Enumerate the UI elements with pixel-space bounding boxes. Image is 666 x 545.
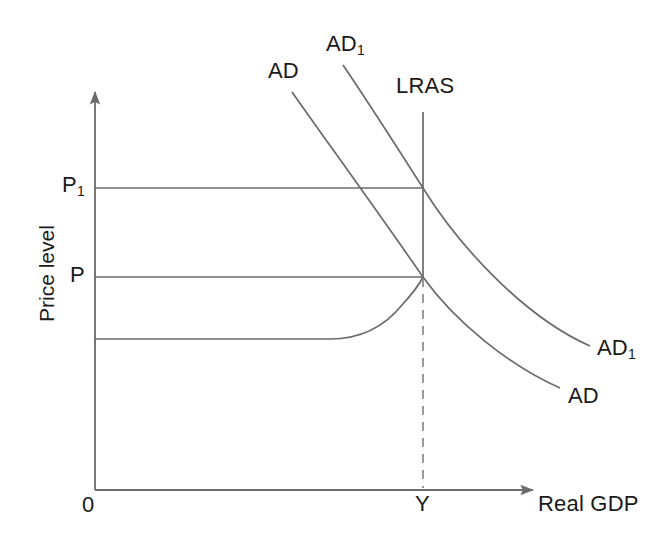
ad-as-diagram: AD AD1 LRAS AD1 AD P1 P 0 Y Real GDP Pri… xyxy=(0,0,666,545)
lras-top-label: LRAS xyxy=(396,75,454,97)
y-tick-label-p1: P1 xyxy=(62,174,85,196)
ad-right-label: AD xyxy=(568,385,599,407)
ad-curve xyxy=(292,92,560,388)
ad1-curve xyxy=(343,65,590,346)
y-axis-title: Price level xyxy=(36,225,57,322)
sras-curve xyxy=(95,277,423,339)
ad-top-label: AD xyxy=(268,60,299,82)
p1-subscript: 1 xyxy=(77,183,85,199)
y-tick-label-p: P xyxy=(70,264,85,286)
ad1-top-subscript: 1 xyxy=(357,42,365,58)
diagram-canvas xyxy=(0,0,666,545)
origin-label: 0 xyxy=(82,494,94,516)
ad1-right-label: AD1 xyxy=(597,337,636,359)
x-axis-title: Real GDP xyxy=(538,493,639,515)
x-tick-label-y: Y xyxy=(415,493,430,515)
ad1-top-label: AD1 xyxy=(326,33,365,55)
ad1-right-subscript: 1 xyxy=(628,346,636,362)
